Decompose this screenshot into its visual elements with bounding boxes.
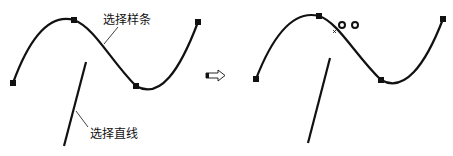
spline-control-point	[133, 83, 139, 89]
after-panel	[253, 13, 446, 143]
diagram-svg	[0, 0, 453, 156]
spline-control-point	[316, 13, 322, 19]
select-spline-label: 选择样条	[103, 13, 151, 27]
spline-control-point	[10, 80, 16, 86]
line-leader-line	[76, 111, 88, 127]
straight-line	[64, 62, 86, 146]
spline-curve-result	[256, 15, 443, 83]
straight-line-result	[308, 58, 330, 143]
tangent-marker-icon	[352, 22, 358, 28]
spline-control-point	[378, 77, 384, 83]
hollow-right-arrow-icon	[206, 70, 225, 81]
tangent-point-icon	[333, 30, 336, 33]
spline-curve	[13, 19, 198, 90]
spline-control-point	[71, 17, 77, 23]
spline-control-point	[253, 76, 259, 82]
spline-leader-line	[104, 27, 118, 44]
diagram-canvas: 选择样条 选择直线	[0, 0, 453, 156]
tangent-marker-icon	[339, 22, 345, 28]
spline-control-point	[195, 19, 201, 25]
spline-control-point	[440, 16, 446, 22]
select-line-label: 选择直线	[90, 127, 138, 141]
